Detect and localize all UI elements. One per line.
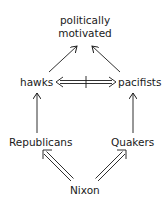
edge-nixon-to-republicans	[43, 150, 74, 181]
nixon-diamond-diagram: politically motivated hawks pacifists Re…	[0, 0, 165, 202]
node-politically-motivated-line2: motivated	[54, 27, 116, 40]
node-pacifists: pacifists	[118, 76, 161, 88]
node-quakers: Quakers	[111, 136, 154, 148]
node-hawks: hawks	[20, 76, 53, 88]
node-nixon: Nixon	[70, 184, 100, 196]
edge-nixon-to-quakers	[96, 150, 127, 181]
node-politically-motivated-line1: politically	[54, 14, 116, 27]
edge-hawks-pacifists-conflict	[56, 76, 116, 88]
node-politically-motivated: politically motivated	[54, 14, 116, 39]
edge-pacifists-to-politically-motivated	[92, 46, 120, 72]
edge-hawks-to-politically-motivated	[49, 46, 77, 72]
node-republicans: Republicans	[9, 136, 72, 148]
